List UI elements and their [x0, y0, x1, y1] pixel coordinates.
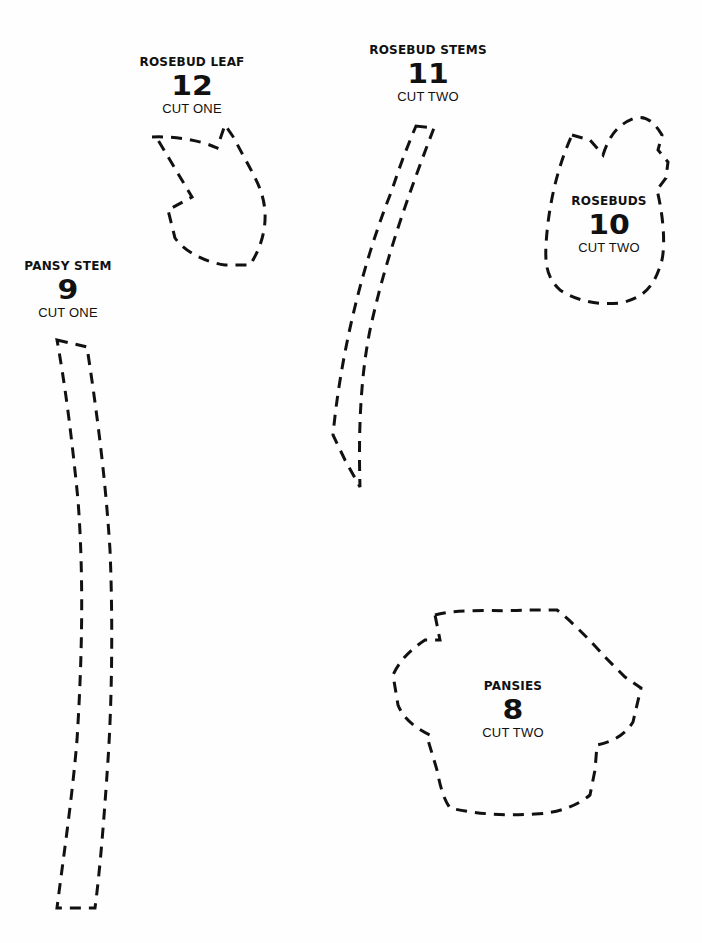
- pansy-stem-outline: [57, 340, 112, 908]
- piece-number: 9: [18, 277, 119, 303]
- piece-title: PANSY STEM: [24, 260, 112, 272]
- label-rosebud-leaf: ROSEBUD LEAF 12 CUT ONE: [139, 56, 244, 115]
- piece-instruction: CUT TWO: [571, 241, 646, 254]
- piece-title: ROSEBUD STEMS: [369, 44, 487, 56]
- piece-instruction: CUT ONE: [24, 306, 112, 319]
- piece-number: 8: [478, 697, 549, 723]
- rosebud-leaf-outline: [152, 125, 265, 265]
- label-pansy-stem: PANSY STEM 9 CUT ONE: [24, 260, 112, 319]
- piece-title: PANSIES: [482, 680, 544, 692]
- label-pansies: PANSIES 8 CUT TWO: [482, 680, 544, 739]
- pattern-page: ROSEBUD LEAF 12 CUT ONE ROSEBUD STEMS 11…: [0, 0, 702, 943]
- piece-number: 11: [360, 61, 495, 87]
- cut-outlines: [0, 0, 702, 943]
- piece-title: ROSEBUD LEAF: [139, 56, 244, 68]
- label-rosebuds: ROSEBUDS 10 CUT TWO: [571, 195, 646, 254]
- label-rosebud-stems: ROSEBUD STEMS 11 CUT TWO: [369, 44, 487, 103]
- piece-number: 10: [566, 212, 653, 238]
- rosebud-stem-outline: [333, 126, 434, 487]
- piece-title: ROSEBUDS: [571, 195, 646, 207]
- piece-instruction: CUT TWO: [369, 90, 487, 103]
- piece-instruction: CUT ONE: [139, 102, 244, 115]
- piece-number: 12: [132, 73, 253, 99]
- piece-instruction: CUT TWO: [482, 726, 544, 739]
